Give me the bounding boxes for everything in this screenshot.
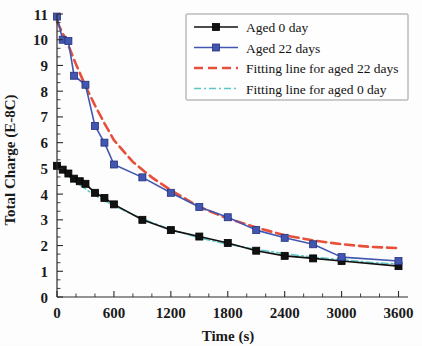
data-point-marker bbox=[196, 233, 203, 240]
chart-legend: Aged 0 dayAged 22 daysFitting line for a… bbox=[186, 14, 408, 100]
data-point-marker bbox=[395, 257, 402, 264]
data-point-marker bbox=[101, 194, 108, 201]
legend-label: Aged 0 day bbox=[246, 20, 308, 35]
data-point-marker bbox=[110, 161, 117, 168]
data-point-marker bbox=[224, 214, 231, 221]
x-tick-label: 600 bbox=[103, 305, 126, 321]
y-tick-label: 4 bbox=[41, 187, 49, 203]
y-tick-label: 9 bbox=[41, 58, 49, 74]
data-point-marker bbox=[338, 254, 345, 261]
data-point-marker bbox=[82, 180, 89, 187]
y-tick-label: 7 bbox=[41, 109, 49, 125]
x-tick-label: 3600 bbox=[384, 305, 414, 321]
y-tick-label: 10 bbox=[33, 32, 48, 48]
data-point-marker bbox=[253, 247, 260, 254]
y-tick-label: 0 bbox=[41, 290, 49, 306]
legend-marker-sample bbox=[213, 24, 220, 31]
x-axis-title: Time (s) bbox=[202, 328, 255, 345]
data-point-marker bbox=[110, 201, 117, 208]
legend-label: Fitting line for aged 0 day bbox=[246, 82, 387, 97]
data-point-marker bbox=[281, 234, 288, 241]
y-tick-label: 3 bbox=[41, 212, 49, 228]
y-tick-label: 5 bbox=[41, 161, 49, 177]
x-tick-label: 1800 bbox=[213, 305, 243, 321]
y-tick-label: 6 bbox=[41, 135, 49, 151]
legend-label: Aged 22 days bbox=[246, 41, 320, 56]
legend-marker-sample bbox=[213, 44, 220, 51]
x-tick-label: 0 bbox=[53, 305, 61, 321]
data-point-marker bbox=[71, 72, 78, 79]
x-tick-label: 2400 bbox=[270, 305, 300, 321]
data-point-marker bbox=[310, 241, 317, 248]
data-point-marker bbox=[196, 203, 203, 210]
data-point-marker bbox=[281, 252, 288, 259]
x-tick-label: 3000 bbox=[327, 305, 357, 321]
line-chart: 06001200180024003000360001234567891011 A… bbox=[0, 0, 422, 346]
legend-label: Fitting line for aged 22 days bbox=[246, 61, 399, 76]
data-point-marker bbox=[82, 81, 89, 88]
x-tick-label: 1200 bbox=[156, 305, 186, 321]
data-point-marker bbox=[253, 227, 260, 234]
data-point-marker bbox=[224, 239, 231, 246]
data-point-marker bbox=[310, 255, 317, 262]
data-point-marker bbox=[101, 139, 108, 146]
data-point-marker bbox=[91, 189, 98, 196]
data-point-marker bbox=[65, 38, 72, 45]
y-tick-label: 1 bbox=[41, 264, 49, 280]
y-tick-label: 2 bbox=[41, 238, 49, 254]
data-point-marker bbox=[91, 122, 98, 129]
chart-figure: 06001200180024003000360001234567891011 A… bbox=[0, 0, 422, 346]
data-point-marker bbox=[167, 189, 174, 196]
y-tick-label: 11 bbox=[34, 7, 48, 23]
data-point-marker bbox=[139, 174, 146, 181]
data-point-marker bbox=[167, 227, 174, 234]
y-tick-label: 8 bbox=[41, 84, 49, 100]
data-point-marker bbox=[139, 216, 146, 223]
y-axis-title: Total Charge (E-8C) bbox=[2, 94, 19, 225]
